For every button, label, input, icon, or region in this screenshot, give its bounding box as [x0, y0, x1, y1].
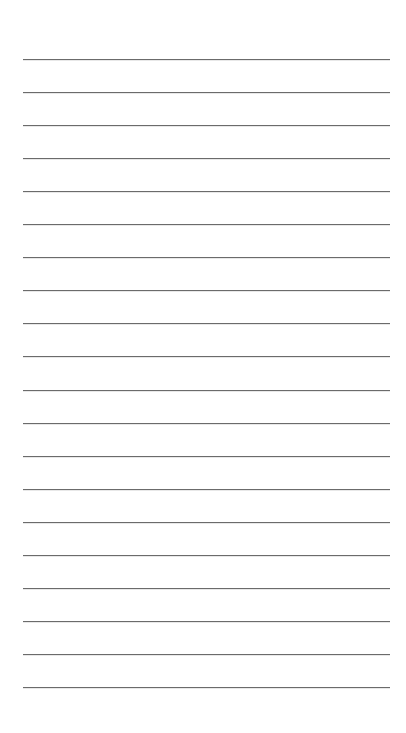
ruled-line [23, 621, 390, 622]
ruled-line [23, 290, 390, 291]
ruled-line [23, 687, 390, 688]
ruled-line [23, 323, 390, 324]
ruled-line [23, 356, 390, 357]
ruled-line [23, 588, 390, 589]
ruled-line [23, 522, 390, 523]
ruled-line [23, 555, 390, 556]
ruled-line [23, 390, 390, 391]
ruled-line [23, 489, 390, 490]
ruled-line [23, 92, 390, 93]
ruled-line [23, 257, 390, 258]
ruled-line [23, 125, 390, 126]
ruled-line [23, 423, 390, 424]
ruled-line [23, 654, 390, 655]
ruled-line [23, 158, 390, 159]
ruled-line [23, 191, 390, 192]
ruled-line [23, 59, 390, 60]
ruled-line [23, 224, 390, 225]
ruled-line [23, 456, 390, 457]
lined-paper-page [0, 0, 406, 733]
